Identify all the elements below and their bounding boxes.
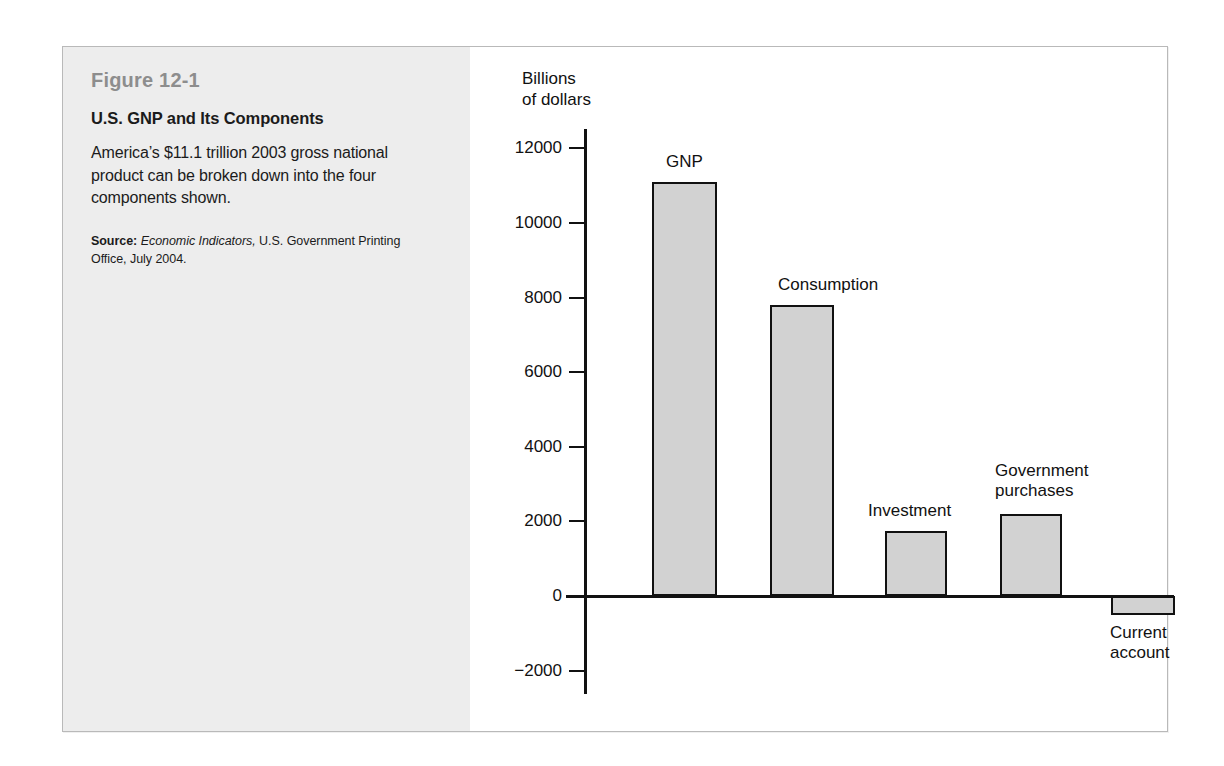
bar-label: Government purchases [995, 461, 1089, 502]
y-axis-title: Billions of dollars [522, 69, 591, 110]
bar-label: Current account [1110, 623, 1170, 664]
y-tick-mark [569, 595, 586, 597]
y-tick-mark [569, 670, 586, 672]
y-tick-mark [569, 222, 586, 224]
y-tick-mark [569, 446, 586, 448]
figure-number: Figure 12-1 [91, 69, 442, 92]
y-tick-label: −2000 [470, 661, 562, 681]
y-tick-label: 2000 [470, 511, 562, 531]
bar-label: Consumption [778, 275, 878, 295]
bar-chart: Billions of dollars 12000100008000600040… [470, 47, 1167, 731]
y-tick-mark [569, 147, 586, 149]
y-tick-label: 4000 [470, 437, 562, 457]
y-tick-label: 8000 [470, 288, 562, 308]
bar-label: Investment [868, 501, 951, 521]
bar [1111, 596, 1175, 615]
y-tick-mark [569, 520, 586, 522]
bar [1000, 514, 1062, 596]
y-axis-line [584, 129, 587, 694]
bar [770, 305, 834, 596]
bar-label: GNP [666, 152, 703, 172]
figure-container: Figure 12-1 U.S. GNP and Its Components … [62, 46, 1168, 732]
figure-source: Source: Economic Indicators, U.S. Govern… [91, 232, 431, 268]
y-tick-label: 0 [470, 586, 562, 606]
figure-title: U.S. GNP and Its Components [91, 109, 442, 128]
source-label: Source: [91, 234, 137, 248]
figure-caption-panel: Figure 12-1 U.S. GNP and Its Components … [63, 47, 470, 731]
bar [885, 531, 947, 596]
chart-panel: Billions of dollars 12000100008000600040… [470, 47, 1167, 731]
y-tick-label: 10000 [470, 213, 562, 233]
source-publication: Economic Indicators, [141, 234, 256, 248]
y-tick-mark [569, 297, 586, 299]
y-tick-label: 6000 [470, 362, 562, 382]
y-tick-label: 12000 [470, 138, 562, 158]
figure-description: America’s $11.1 trillion 2003 gross nati… [91, 142, 421, 210]
y-tick-mark [569, 371, 586, 373]
bar [652, 182, 717, 596]
